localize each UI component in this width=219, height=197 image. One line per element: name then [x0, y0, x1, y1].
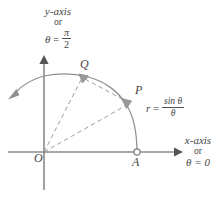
- theta-symbol: θ: [45, 34, 50, 46]
- y-axis-theta-equation: θ = π 2: [22, 28, 94, 52]
- point-label-q: Q: [80, 58, 89, 71]
- sin-theta-over-theta-fraction: sin θ θ: [162, 96, 184, 119]
- curve-group: [8, 74, 137, 152]
- point-label-a: A: [132, 156, 139, 169]
- equation-numerator: sin θ: [162, 96, 184, 108]
- curve-equation-label: r = sin θ θ: [146, 97, 184, 120]
- dashed-segment-oq: [44, 80, 81, 152]
- equals-sign: =: [53, 34, 59, 46]
- axes-group: [8, 55, 183, 190]
- pi-over-two-fraction: π 2: [62, 27, 71, 51]
- point-label-o: O: [34, 152, 43, 165]
- polar-curve-path: [14, 74, 137, 152]
- fraction-numerator: π: [62, 27, 71, 40]
- fraction-denominator: 2: [62, 39, 71, 51]
- y-axis-caption: y-axis or θ = π 2: [22, 6, 94, 52]
- x-axis-theta-equation: θ = 0: [176, 157, 219, 169]
- y-axis-or-text: or: [22, 18, 94, 28]
- equation-equals-sign: =: [153, 103, 159, 115]
- equation-denominator: θ: [162, 108, 184, 119]
- x-axis-label-text: x-axis: [176, 135, 219, 147]
- point-label-p: P: [135, 84, 142, 97]
- equation-r-symbol: r: [146, 103, 150, 115]
- y-axis-label-text: y-axis: [22, 6, 94, 18]
- y-axis-arrowhead: [39, 55, 48, 64]
- dashed-segment-qp: [85, 79, 124, 100]
- point-p-marker: [122, 99, 132, 109]
- polar-curve-figure: y-axis or θ = π 2 x-axis or θ = 0 O A P …: [0, 0, 219, 197]
- x-axis-caption: x-axis or θ = 0: [176, 135, 219, 168]
